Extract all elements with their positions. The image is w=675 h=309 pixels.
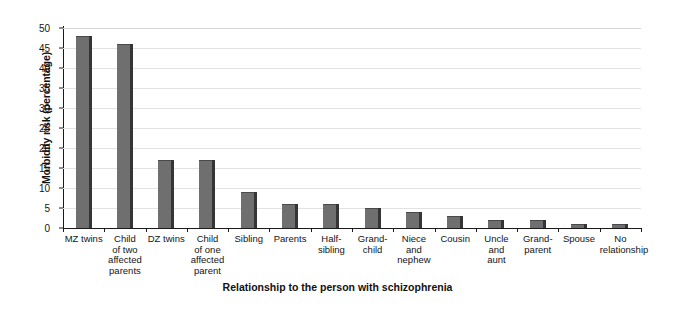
bar[interactable] xyxy=(406,212,422,228)
bar-slot xyxy=(146,28,187,228)
x-axis-tick-mark xyxy=(517,228,518,232)
x-axis-tick-mark xyxy=(228,228,229,232)
x-axis-tick-label-line: nephew xyxy=(393,255,434,266)
x-axis-tick-mark xyxy=(311,228,312,232)
x-axis-tick-mark xyxy=(104,228,105,232)
x-axis-tick-label-line: Uncle xyxy=(476,234,517,245)
x-axis-tick-mark xyxy=(558,228,559,232)
bar-slot xyxy=(517,28,558,228)
bar-slot xyxy=(269,28,310,228)
y-axis-tick-label: 0 xyxy=(44,223,50,234)
x-axis-tick-label-line: Grand- xyxy=(517,234,558,245)
bar[interactable] xyxy=(76,36,92,228)
bar[interactable] xyxy=(158,160,174,228)
x-axis-tick-label-line: Half- xyxy=(311,234,352,245)
x-axis-tick-label: Grand-child xyxy=(352,234,393,255)
bar[interactable] xyxy=(199,160,215,228)
x-axis-tick-label: Childof oneaffectedparent xyxy=(187,234,228,276)
x-axis-tick-label: Nieceandnephew xyxy=(393,234,434,266)
x-axis-tick-mark xyxy=(393,228,394,232)
x-axis-tick-label: Half-sibling xyxy=(311,234,352,255)
x-axis-tick-label-line: parent xyxy=(187,266,228,277)
x-axis-tick-mark xyxy=(187,228,188,232)
bar-slot xyxy=(600,28,641,228)
y-axis-tick-label: 45 xyxy=(39,43,50,54)
x-axis-tick-label-line: sibling xyxy=(311,245,352,256)
x-axis-tick-label: Sibling xyxy=(228,234,269,245)
x-axis-tick-mark xyxy=(63,228,64,232)
x-axis-tick-label-line: Niece xyxy=(393,234,434,245)
x-axis-tick-mark xyxy=(600,228,601,232)
y-axis-tick-label: 10 xyxy=(39,183,50,194)
x-axis-tick-label-line: affected xyxy=(187,255,228,266)
x-axis-tick-label-line: MZ twins xyxy=(63,234,104,245)
x-axis-tick-label-line: Sibling xyxy=(228,234,269,245)
x-axis-tick-mark xyxy=(269,228,270,232)
bar-slot xyxy=(435,28,476,228)
x-axis-tick-label-line: parent xyxy=(517,245,558,256)
bar-slot xyxy=(63,28,104,228)
x-axis-tick-label-line: Cousin xyxy=(435,234,476,245)
bar-slot xyxy=(476,28,517,228)
x-axis-tick-label-line: parents xyxy=(104,266,145,277)
bar[interactable] xyxy=(241,192,257,228)
x-axis-tick-label-line: Parents xyxy=(269,234,310,245)
x-axis-tick-label-line: child xyxy=(352,245,393,256)
bar[interactable] xyxy=(530,220,546,228)
bar-slot xyxy=(311,28,352,228)
bar[interactable] xyxy=(612,224,628,228)
y-axis-tick-label: 30 xyxy=(39,103,50,114)
bar-slot xyxy=(558,28,599,228)
x-axis-tick-label-line: No xyxy=(600,234,641,245)
x-axis-tick-label: Uncleandaunt xyxy=(476,234,517,266)
bar[interactable] xyxy=(571,224,587,228)
y-axis-tick-label: 40 xyxy=(39,63,50,74)
bar-slot xyxy=(393,28,434,228)
x-axis-tick-label: Norelationship xyxy=(600,234,641,255)
y-axis-tick-label: 15 xyxy=(39,163,50,174)
x-axis-tick-label: Childof twoaffectedparents xyxy=(104,234,145,276)
bar[interactable] xyxy=(365,208,381,228)
y-axis-tick-label: 20 xyxy=(39,143,50,154)
y-axis-tick-labels: 05101520253035404550 xyxy=(0,28,58,228)
bar-slot xyxy=(187,28,228,228)
x-axis-tick-mark xyxy=(641,228,642,232)
x-axis-tick-label: Parents xyxy=(269,234,310,245)
x-axis-tick-label-line: affected xyxy=(104,255,145,266)
bar[interactable] xyxy=(488,220,504,228)
bar[interactable] xyxy=(282,204,298,228)
x-axis-tick-label-line: Child xyxy=(187,234,228,245)
x-axis-title: Relationship to the person with schizoph… xyxy=(0,281,675,293)
x-axis-tick-label: Spouse xyxy=(558,234,599,245)
x-axis-tick-label-line: aunt xyxy=(476,255,517,266)
x-axis-tick-label-line: Spouse xyxy=(558,234,599,245)
x-axis-tick-label: Cousin xyxy=(435,234,476,245)
bar-slot xyxy=(104,28,145,228)
x-axis-tick-labels: MZ twinsChildof twoaffectedparentsDZ twi… xyxy=(63,234,641,278)
x-axis-tick-mark xyxy=(352,228,353,232)
y-axis-tick-label: 25 xyxy=(39,123,50,134)
x-axis-tick-label: MZ twins xyxy=(63,234,104,245)
bar-series xyxy=(63,28,641,228)
y-axis-tick-label: 5 xyxy=(44,203,50,214)
plot-area xyxy=(63,28,641,228)
chart-figure: Morbidity risk (percentage) 051015202530… xyxy=(0,0,675,309)
x-axis-tick-label-line: Grand- xyxy=(352,234,393,245)
bar-slot xyxy=(352,28,393,228)
x-axis-tick-label-line: DZ twins xyxy=(146,234,187,245)
bar[interactable] xyxy=(447,216,463,228)
bar[interactable] xyxy=(117,44,133,228)
bar[interactable] xyxy=(323,204,339,228)
x-axis-tick-mark xyxy=(435,228,436,232)
y-axis-tick-label: 50 xyxy=(39,23,50,34)
x-axis-tick-mark xyxy=(146,228,147,232)
x-axis-tick-label-line: relationship xyxy=(600,245,641,256)
x-axis-tick-label: Grand-parent xyxy=(517,234,558,255)
y-axis-tick-label: 35 xyxy=(39,83,50,94)
x-axis-tick-label: DZ twins xyxy=(146,234,187,245)
bar-slot xyxy=(228,28,269,228)
x-axis-tick-label-line: Child xyxy=(104,234,145,245)
x-axis-tick-mark xyxy=(476,228,477,232)
